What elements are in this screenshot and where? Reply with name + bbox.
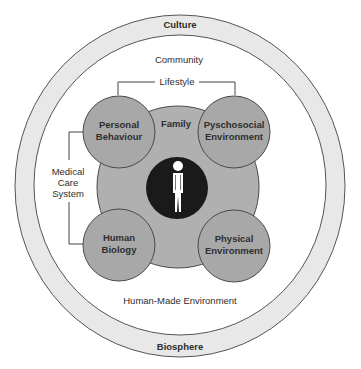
culture-label: Culture bbox=[163, 19, 196, 30]
system-label: System bbox=[52, 188, 84, 199]
human-made-environment-label: Human-Made Environment bbox=[123, 295, 237, 306]
factor-human-biology: Human Biology bbox=[83, 209, 155, 281]
svg-text:Personal: Personal bbox=[99, 119, 139, 130]
svg-text:Environment: Environment bbox=[205, 131, 264, 142]
svg-text:Biology: Biology bbox=[102, 244, 138, 255]
mandala-of-health-diagram: Culture Biosphere Community Human-Made E… bbox=[0, 0, 361, 369]
factor-personal-behaviour: Personal Behaviour bbox=[83, 96, 155, 168]
medical-label: Medical bbox=[52, 166, 85, 177]
lifestyle-label: Lifestyle bbox=[160, 76, 195, 87]
factor-physical-environment: Physical Environment bbox=[198, 210, 270, 282]
factor-psychosocial-environment: Pyschosocial Environment bbox=[198, 96, 270, 168]
center-individual bbox=[146, 157, 208, 219]
svg-text:Environment: Environment bbox=[205, 245, 264, 256]
svg-text:Physical: Physical bbox=[215, 233, 254, 244]
svg-text:Human: Human bbox=[103, 232, 135, 243]
community-label: Community bbox=[155, 54, 203, 65]
care-label: Care bbox=[58, 177, 79, 188]
biosphere-label: Biosphere bbox=[157, 341, 203, 352]
svg-text:Pyschosocial: Pyschosocial bbox=[204, 119, 265, 130]
svg-text:Behaviour: Behaviour bbox=[96, 131, 143, 142]
family-label: Family bbox=[161, 118, 192, 129]
